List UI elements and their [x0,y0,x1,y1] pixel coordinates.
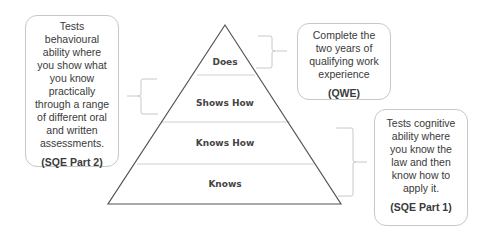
callout-line: ability where [392,130,450,143]
level-label-knows: Knows [208,179,241,189]
callout-sqe-part-2: Tests behavioural ability where you show… [25,15,119,167]
bracket-bottom-right [336,128,367,196]
callout-line: you know the [390,143,452,156]
callout-tag: (QWE) [328,87,360,100]
level-label-shows-how: Shows How [196,98,254,108]
callout-line: law and then [391,156,451,169]
callout-line: through a range [35,98,109,111]
callout-line: you show what [37,59,106,72]
callout-line: Tests [60,20,85,33]
callout-line: Complete the [313,29,375,42]
bracket-top-right [256,36,287,68]
callout-line: know how to [392,169,450,182]
callout-line: qualifying work [309,55,378,68]
callout-line: apply it. [403,182,439,195]
callout-line: two years of [316,42,373,55]
callout-tag: (SQE Part 2) [41,156,102,169]
callout-line: practically [49,85,96,98]
callout-line: assessments. [40,137,104,150]
callout-line: Tests cognitive [387,117,456,130]
callout-line: and written [46,124,97,137]
callout-qwe: Complete the two years of qualifying wor… [297,23,391,100]
callout-line: of different oral [37,111,107,124]
callout-line: you know [50,72,94,85]
level-label-knows-how: Knows How [196,138,254,148]
callout-tag: (SQE Part 1) [390,201,451,214]
callout-line: experience [318,68,369,81]
callout-sqe-part-1: Tests cognitive ability where you know t… [374,109,468,226]
callout-line: behavioural [45,33,99,46]
callout-line: ability where [43,46,101,59]
bracket-left [127,79,158,114]
level-label-does: Does [212,57,237,67]
